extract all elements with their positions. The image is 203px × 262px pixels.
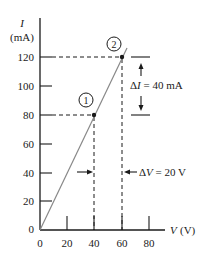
- svg-text:120: 120: [18, 51, 35, 63]
- svg-text:0: 0: [37, 237, 43, 249]
- svg-text:40: 40: [89, 237, 101, 249]
- iv-line: [40, 48, 127, 230]
- point-1-marker: 1: [79, 93, 93, 107]
- y-axis-symbol: I: [19, 17, 25, 29]
- x-tick-labels: 0 20 40 60 80: [37, 237, 155, 249]
- x-axis-unit: (V): [180, 224, 196, 237]
- point-2: [120, 55, 124, 59]
- point-2-marker: 2: [107, 37, 121, 51]
- svg-text:2: 2: [112, 39, 117, 50]
- arrow-right-icon: [87, 170, 93, 175]
- svg-text:20: 20: [62, 237, 74, 249]
- iv-chart: 0 20 40 60 80 100 120 0 20 40 60 80 I (m…: [0, 0, 203, 262]
- y-ticks: [40, 57, 52, 201]
- guide-lines: [52, 57, 122, 230]
- y-tick-labels: 0 20 40 60 80 100 120: [18, 51, 35, 235]
- x-ticks: [67, 216, 149, 230]
- arrow-down-icon: [139, 105, 144, 111]
- svg-text:80: 80: [23, 109, 35, 121]
- point-1: [92, 113, 96, 117]
- delta-i-label: ΔI = 40 mA: [130, 79, 183, 91]
- delta-v-label: ΔV = 20 V: [139, 166, 186, 178]
- svg-text:40: 40: [23, 167, 35, 179]
- arrow-up-icon: [139, 63, 144, 69]
- x-axis-symbol: V: [170, 224, 178, 236]
- svg-text:0: 0: [29, 223, 35, 235]
- y-axis-unit: (mA): [10, 31, 34, 44]
- svg-text:100: 100: [18, 80, 35, 92]
- svg-text:80: 80: [144, 237, 156, 249]
- svg-text:20: 20: [23, 195, 35, 207]
- svg-text:1: 1: [84, 95, 89, 106]
- arrow-left-icon: [124, 170, 130, 175]
- svg-text:60: 60: [117, 237, 129, 249]
- svg-text:60: 60: [23, 138, 35, 150]
